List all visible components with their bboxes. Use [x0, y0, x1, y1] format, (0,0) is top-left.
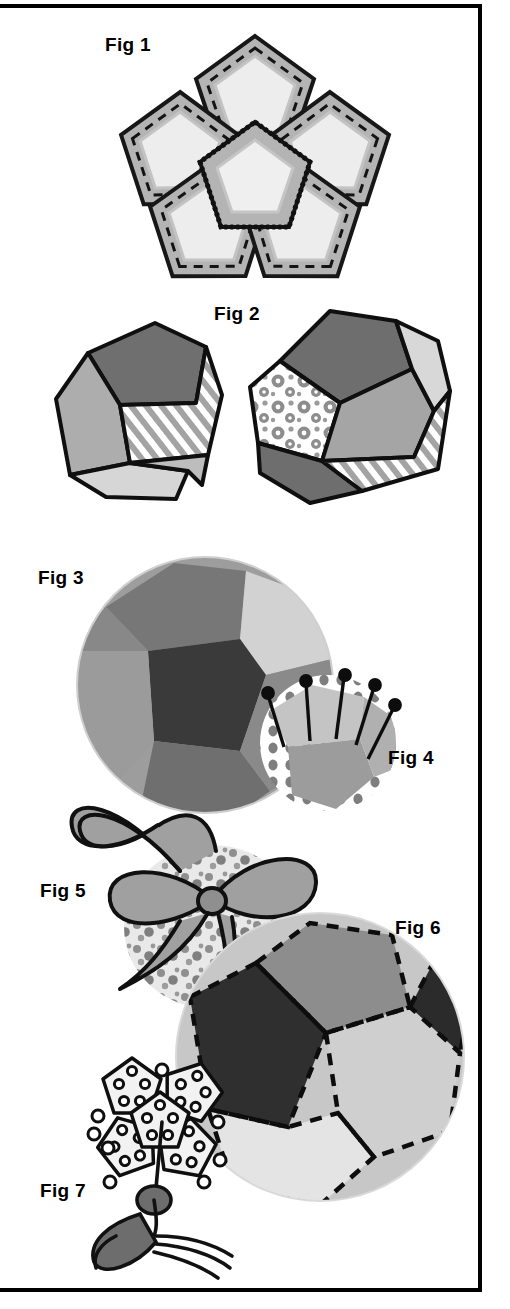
fig6-label: Fig 6: [395, 917, 441, 939]
fig2-right-shape: [250, 311, 450, 503]
fig4-label: Fig 4: [388, 747, 434, 769]
fig2-label: Fig 2: [214, 303, 260, 325]
fig2-artwork: [10, 295, 470, 515]
diagram-page: Fig 1: [0, 0, 510, 1309]
fig1-artwork: [120, 20, 390, 280]
fig7-label: Fig 7: [40, 1180, 86, 1202]
fig5-label: Fig 5: [40, 880, 86, 902]
fig3-label: Fig 3: [38, 567, 84, 589]
fig2-left-shape: [56, 323, 222, 499]
fig1-label: Fig 1: [105, 34, 151, 56]
fig7-artwork: [70, 1030, 280, 1280]
